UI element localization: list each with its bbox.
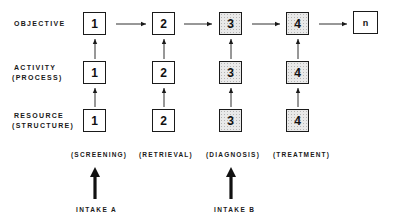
activity-box-3: 3 xyxy=(219,61,242,84)
intake-a-label: INTAKE A xyxy=(76,206,117,213)
resource-box-2: 2 xyxy=(152,109,175,132)
connector-arrows xyxy=(0,0,395,220)
objective-box-4: 4 xyxy=(286,12,309,35)
intake-a-arrow-icon xyxy=(90,167,100,199)
activity-box-4: 4 xyxy=(286,61,309,84)
intake-b-arrow-icon xyxy=(226,167,236,199)
activity-box-1: 1 xyxy=(83,61,106,84)
intake-b-label: INTAKE B xyxy=(214,206,255,213)
resource-box-3: 3 xyxy=(219,109,242,132)
stage-label-screening: (SCREENING) xyxy=(71,151,127,158)
stage-label-retrieval: (RETRIEVAL) xyxy=(139,151,193,158)
resource-box-4: 4 xyxy=(286,109,309,132)
resource-box-1: 1 xyxy=(83,109,106,132)
stage-label-diagnosis: (DIAGNOSIS) xyxy=(206,151,260,158)
objective-box-3: 3 xyxy=(219,12,242,35)
objective-box-2: 2 xyxy=(152,12,175,35)
stage-label-treatment: (TREATMENT) xyxy=(273,151,330,158)
activity-box-2: 2 xyxy=(152,61,175,84)
objective-box-n: n xyxy=(353,11,378,34)
objective-box-1: 1 xyxy=(83,12,106,35)
